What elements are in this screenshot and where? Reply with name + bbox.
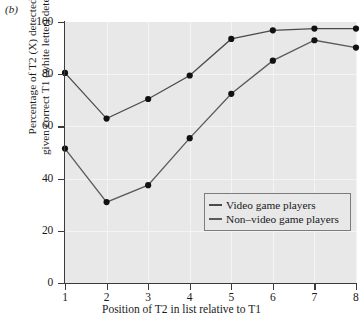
data-point [187,72,193,78]
data-point [228,91,234,97]
data-point [103,115,109,121]
x-tick-mark [273,283,274,290]
data-point [353,25,359,31]
data-point [270,58,276,64]
y-tick-mark [58,22,65,23]
data-point [103,199,109,205]
x-tick-mark [190,283,191,290]
data-point [270,27,276,33]
x-tick-label-6: 6 [263,291,283,303]
y-axis-line [64,21,65,284]
data-point [145,96,151,102]
y-tick-label-80: 80 [13,67,53,79]
x-tick-label-3: 3 [138,291,158,303]
y-tick-label-100: 100 [13,15,53,27]
x-tick-label-7: 7 [304,291,324,303]
chart-figure: (b) 0 20 40 60 80 100 1 2 [0,0,363,321]
legend-swatch-vgp [209,204,222,206]
y-tick-label-20: 20 [13,224,53,236]
data-point [311,37,317,43]
y-tick-mark [58,126,65,127]
y-tick-mark [58,283,65,284]
data-point [145,182,151,188]
x-axis-label: Position of T2 in list relative to T1 [0,303,363,315]
y-tick-mark [58,231,65,232]
data-point [228,36,234,42]
x-tick-label-5: 5 [221,291,241,303]
series-line-non-video-game-players [65,40,356,202]
data-point [311,25,317,31]
legend-entry-nvgp: Non–video game players [209,212,345,226]
x-tick-mark [314,283,315,290]
x-tick-mark [148,283,149,290]
legend-label-vgp: Video game players [226,199,316,211]
legend-label-nvgp: Non–video game players [226,213,339,225]
data-point [353,44,359,50]
series-layer [0,0,363,321]
y-tick-label-0: 0 [13,276,53,288]
x-tick-label-4: 4 [180,291,200,303]
x-tick-mark [65,283,66,290]
y-tick-label-60: 60 [13,119,53,131]
x-axis-line [64,283,357,284]
x-tick-label-1: 1 [55,291,75,303]
legend-swatch-nvgp [209,218,222,220]
y-tick-mark [58,179,65,180]
x-tick-mark [107,283,108,290]
x-tick-label-2: 2 [97,291,117,303]
x-tick-mark [356,283,357,290]
data-point [187,135,193,141]
x-tick-label-8: 8 [346,291,363,303]
y-tick-mark [58,74,65,75]
x-tick-mark [231,283,232,290]
legend: Video game players Non–video game player… [204,193,351,231]
y-tick-label-40: 40 [13,172,53,184]
legend-entry-vgp: Video game players [209,198,345,212]
